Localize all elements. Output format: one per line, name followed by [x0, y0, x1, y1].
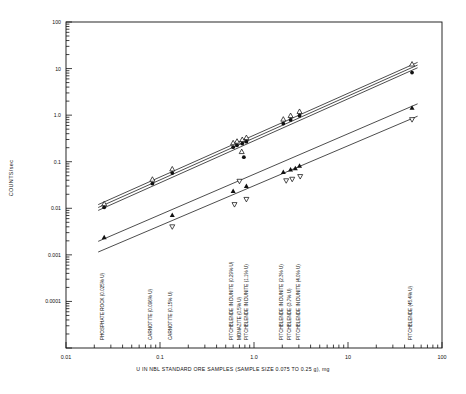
x-tick-label: 0.1	[156, 354, 164, 360]
plot-frame	[66, 22, 442, 348]
data-point-upper-open-triangle	[244, 135, 249, 140]
data-point-upper-filled-circle	[235, 143, 239, 147]
y-tick-label: 0.001	[48, 252, 61, 258]
y-tick-label: 0.01	[51, 205, 61, 211]
sample-label: PITCHBLENDE IN DUNITE (1.1% U)	[244, 264, 249, 340]
data-point-upper-filled-circle	[102, 205, 106, 209]
data-point-middle-filled-triangle	[244, 184, 249, 189]
data-point-upper-open-triangle	[297, 109, 302, 114]
data-point-lower-open-triangle-down	[170, 225, 175, 230]
sample-label: PITCHBLENDE (45.4% U)	[408, 285, 413, 340]
data-point-middle-filled-triangle	[170, 212, 175, 217]
data-point-upper-open-triangle	[281, 117, 286, 122]
data-point-upper-filled-circle	[170, 171, 174, 175]
plot-svg: 100101.00.10.010.0010.00010.010.11.01010…	[0, 0, 466, 394]
y-tick-label: 100	[52, 19, 61, 25]
data-point-middle-filled-triangle	[293, 166, 298, 171]
sample-label: PITCHBLENDE IN DUNITE (4.0% U)	[296, 264, 301, 340]
x-tick-label: 1.0	[250, 354, 258, 360]
data-point-outlier-open-triangle	[239, 149, 244, 154]
y-tick-label: 1.0	[54, 112, 61, 118]
data-point-upper-open-triangle	[102, 201, 107, 206]
fit-line	[98, 68, 417, 211]
data-point-upper-filled-circle	[231, 145, 235, 149]
sample-label: PITCHBLENDE IN DUNITE (2.3% U)	[279, 264, 284, 340]
fit-line	[98, 62, 417, 204]
sample-label: PITCHBLENDE IN DUNITE (0.29% U)	[229, 261, 234, 340]
data-point-lower-open-triangle-down	[284, 179, 289, 184]
data-point-lower-open-triangle-down	[410, 118, 415, 123]
sample-label: MONAZITE (0.5% U)	[237, 296, 242, 340]
data-point-upper-filled-circle	[289, 118, 293, 122]
data-point-upper-filled-circle	[150, 182, 154, 186]
y-tick-label: 0.0001	[45, 298, 61, 304]
data-point-lower-open-triangle-down	[290, 177, 295, 182]
data-point-middle-filled-triangle	[102, 235, 107, 240]
data-point-upper-filled-circle	[244, 140, 248, 144]
y-axis-title: COUNTS/sec	[8, 143, 14, 213]
data-point-upper-open-triangle	[150, 177, 155, 182]
x-tick-label: 10	[345, 354, 351, 360]
fit-line	[98, 104, 417, 242]
data-point-middle-filled-triangle	[281, 170, 286, 175]
data-point-upper-open-triangle	[288, 113, 293, 118]
sample-label: PITCHBLENDE (3.7% U)	[287, 288, 292, 340]
data-point-upper-open-triangle	[170, 166, 175, 171]
data-point-upper-open-triangle	[235, 139, 240, 144]
calibration-chart-figure: 100101.00.10.010.0010.00010.010.11.01010…	[0, 0, 466, 394]
sample-label: CARNOTITE (0.15% U)	[168, 291, 173, 340]
x-axis-title: U IN NBL STANDARD ORE SAMPLES (SAMPLE SI…	[0, 366, 466, 372]
data-point-lower-open-triangle-down	[244, 197, 249, 202]
data-point-upper-filled-circle	[240, 142, 244, 146]
sample-label: CARNOTITE (0.096% U)	[148, 288, 153, 340]
x-tick-label: 0.01	[61, 354, 72, 360]
data-point-lower-open-triangle-down	[298, 175, 303, 180]
y-tick-label: 0.1	[54, 159, 61, 165]
data-point-lower-open-triangle-down	[232, 203, 237, 208]
data-point-upper-filled-circle	[410, 71, 414, 75]
sample-label: PHOSPHATE ROCK (0.025% U)	[100, 272, 105, 340]
y-tick-label: 10	[55, 66, 61, 72]
data-point-upper-filled-circle	[281, 122, 285, 126]
x-tick-label: 100	[438, 354, 447, 360]
data-point-outlier-low-filled-circle	[242, 155, 246, 159]
data-point-middle-filled-triangle	[231, 189, 236, 194]
data-point-upper-filled-circle	[298, 114, 302, 118]
